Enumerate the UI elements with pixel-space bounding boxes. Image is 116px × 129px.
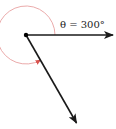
angle-label: θ = 300° (60, 19, 105, 30)
terminal-side-ray (26, 35, 77, 123)
angle-diagram: θ = 300° (0, 0, 116, 129)
vertex-dot (24, 33, 28, 37)
